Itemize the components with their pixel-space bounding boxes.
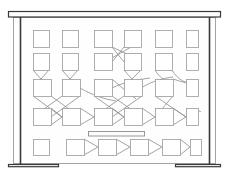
marker-tray	[89, 132, 145, 137]
node-box	[95, 109, 113, 126]
node-box	[187, 54, 199, 71]
node-box	[63, 109, 81, 126]
node-box	[34, 31, 50, 48]
node-box	[34, 54, 50, 71]
node-box	[63, 80, 81, 97]
node-box	[156, 54, 173, 71]
bottom-rail	[9, 165, 221, 167]
diagram-canvas	[0, 0, 229, 180]
node-box	[63, 31, 79, 48]
node-box	[95, 80, 113, 97]
node-box	[187, 80, 199, 97]
node-box	[156, 31, 173, 48]
node-box	[163, 140, 181, 156]
node-box	[34, 80, 52, 97]
node-box	[95, 54, 113, 71]
screenshot-root	[0, 0, 229, 180]
node-box	[125, 31, 142, 48]
node-box	[156, 109, 174, 126]
node-box	[34, 109, 52, 126]
node-box	[125, 80, 143, 97]
node-box	[67, 140, 85, 156]
node-box	[63, 54, 79, 71]
node-box	[187, 31, 199, 48]
node-box	[131, 140, 149, 156]
node-box	[156, 80, 174, 97]
node-box	[191, 140, 202, 156]
node-box	[187, 109, 199, 126]
node-box	[125, 109, 143, 126]
node-box	[125, 54, 142, 71]
top-rail	[9, 12, 221, 18]
node-box	[34, 140, 50, 156]
node-box	[99, 140, 117, 156]
node-box	[95, 31, 113, 48]
